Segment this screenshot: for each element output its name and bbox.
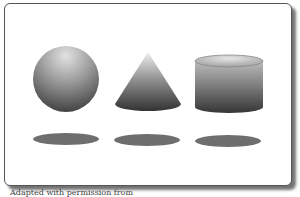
cylinder-shadow (195, 135, 261, 147)
cone-shadow (114, 134, 180, 146)
cylinder-shape (195, 55, 263, 113)
figure-caption: Adapted with permission from (10, 189, 133, 197)
sphere-shape (33, 46, 99, 112)
sphere-shadow (33, 133, 99, 145)
shadows (33, 133, 261, 147)
cone-shape (115, 52, 181, 111)
shapes-scene (0, 0, 300, 197)
